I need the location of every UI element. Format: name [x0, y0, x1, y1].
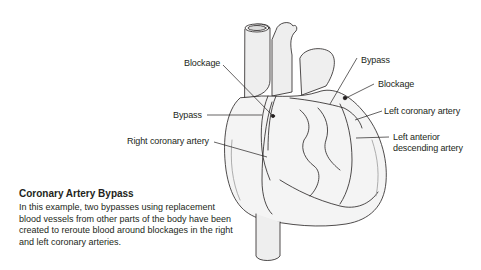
label-lad-line2: descending artery — [393, 143, 463, 154]
caption-title: Coronary Artery Bypass — [19, 187, 239, 200]
label-bypass-right: Bypass — [173, 110, 202, 121]
label-bypass-left: Bypass — [361, 55, 390, 66]
label-right-coronary-artery: Right coronary artery — [127, 136, 209, 147]
pulmonary-trunk — [272, 23, 297, 96]
label-left-coronary-artery: Left coronary artery — [384, 106, 460, 117]
leader-blockage-left — [346, 84, 374, 98]
label-blockage-left: Blockage — [378, 79, 414, 90]
left-atrium — [300, 49, 334, 95]
inferior-vena-cava — [256, 214, 280, 261]
heart-body — [225, 90, 387, 226]
caption-body: In this example, two bypasses using repl… — [19, 202, 239, 248]
label-lad-line1: Left anterior — [393, 132, 440, 143]
aorta-vessel — [245, 24, 270, 98]
figure-caption: Coronary Artery Bypass In this example, … — [19, 187, 239, 248]
label-blockage-right: Blockage — [184, 58, 220, 69]
